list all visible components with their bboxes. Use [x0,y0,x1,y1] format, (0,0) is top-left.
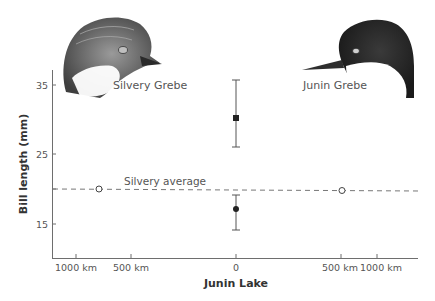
y-axis-title: Bill length (mm) [17,114,30,214]
silvery-average-line [53,189,420,191]
y-tick-15: 15 [36,219,48,230]
y-tick-25: 25 [36,149,48,160]
x-tick-west-500: 500 km [113,262,149,273]
x-tick-east-1000: 1000 km [360,262,402,273]
junin-grebe-mean-marker [233,115,239,121]
silvery-grebe-label: Silvery Grebe [113,79,187,92]
silvery-junin-errorbar [232,195,240,230]
x-axis-title: Junin Lake [203,277,268,290]
x-tick-east-500: 500 km [322,262,358,273]
silvery-junin-mean-marker [233,206,239,212]
y-tick-35: 35 [36,80,48,91]
x-tick-west-1000: 1000 km [55,262,97,273]
silvery-east-point [339,188,345,194]
bill-length-chart: Silvery Grebe Junin Grebe 35 25 15 1000 … [0,0,435,301]
silvery-west-point [96,186,102,192]
silvery-average-label: Silvery average [124,175,206,187]
x-tick-zero: 0 [233,262,239,273]
junin-grebe-label: Junin Grebe [302,79,367,92]
junin-grebe-errorbar [232,80,240,147]
